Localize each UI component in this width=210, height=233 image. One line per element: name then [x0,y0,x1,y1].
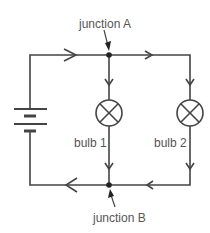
junction-b-dot [106,182,112,188]
bulb-1-icon [96,100,122,126]
bulb-1-label: bulb 1 [74,136,107,150]
battery-icon [14,109,47,131]
pointer-arrow-b-icon [108,189,115,207]
bulb-2-icon [177,100,203,126]
bulb-2-label: bulb 2 [154,136,187,150]
wire-left-top [30,55,190,109]
junction-a-dot [106,52,112,58]
wire-left-bottom [30,126,190,185]
junction-b-label: junction B [92,211,146,225]
pointer-arrow-a-icon [104,30,111,51]
circuit-diagram: junction A junction B bulb 1 bulb 2 [0,0,210,233]
junction-a-label: junction A [78,17,131,31]
